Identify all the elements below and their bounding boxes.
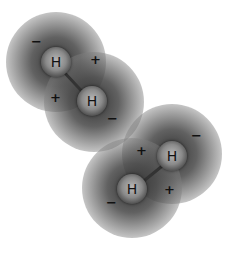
hydrogen-atom: H (77, 86, 107, 116)
atom-label: H (167, 148, 178, 164)
partial-positive-charge: + (136, 144, 147, 157)
partial-negative-charge: − (106, 196, 117, 209)
partial-negative-charge: − (107, 112, 118, 125)
partial-negative-charge: − (31, 35, 42, 48)
hydrogen-molecules-diagram: H H H H − + + − + − + − (0, 0, 230, 258)
partial-positive-charge: + (90, 53, 101, 66)
partial-positive-charge: + (50, 91, 61, 104)
partial-positive-charge: + (164, 183, 175, 196)
partial-negative-charge: − (191, 129, 202, 142)
atom-label: H (87, 93, 98, 109)
hydrogen-atom: H (117, 174, 147, 204)
hydrogen-atom: H (157, 141, 187, 171)
atom-label: H (51, 54, 62, 70)
atom-label: H (127, 181, 138, 197)
hydrogen-atom: H (41, 47, 71, 77)
